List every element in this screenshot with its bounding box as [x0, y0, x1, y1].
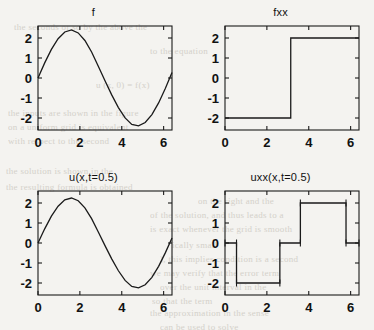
figure-grid: f 0246210-1-2 fxx 0246210-1-2 u(x,t=0.5)…	[0, 0, 374, 330]
x-tick-label: 6	[347, 135, 354, 150]
data-curve	[225, 38, 359, 118]
x-tick-label: 2	[76, 300, 83, 315]
x-tick-label: 0	[221, 300, 228, 315]
y-tick-label: 0	[212, 71, 219, 86]
y-tick-label: -1	[20, 91, 32, 106]
panel-u: u(x,t=0.5) 0246210-1-2	[0, 165, 187, 330]
y-tick-label: -1	[20, 256, 32, 271]
plot-fxx: 0246210-1-2	[187, 0, 374, 165]
data-curve	[38, 198, 172, 288]
y-tick-label: -1	[207, 256, 219, 271]
y-tick-label: 2	[25, 196, 32, 211]
y-tick-label: 0	[212, 236, 219, 251]
x-tick-label: 4	[118, 300, 126, 315]
y-tick-label: 2	[212, 196, 219, 211]
x-tick-label: 0	[34, 300, 41, 315]
panel-uxx: uxx(x,t=0.5) 0246210-1-2	[187, 165, 374, 330]
data-curve	[38, 30, 172, 126]
x-tick-label: 2	[263, 300, 270, 315]
y-tick-label: -2	[207, 111, 219, 126]
panel-f: f 0246210-1-2	[0, 0, 187, 165]
y-tick-label: 1	[212, 51, 219, 66]
x-tick-label: 0	[221, 135, 228, 150]
x-tick-label: 6	[347, 300, 354, 315]
x-tick-label: 6	[160, 135, 167, 150]
y-tick-label: 0	[25, 236, 32, 251]
x-tick-label: 4	[305, 135, 313, 150]
x-tick-label: 4	[118, 135, 126, 150]
panel-fxx: fxx 0246210-1-2	[187, 0, 374, 165]
y-tick-label: 1	[25, 216, 32, 231]
x-tick-label: 2	[76, 135, 83, 150]
x-tick-label: 2	[263, 135, 270, 150]
x-tick-label: 4	[305, 300, 313, 315]
y-tick-label: 0	[25, 71, 32, 86]
y-tick-label: -1	[207, 91, 219, 106]
axes-box	[225, 26, 359, 130]
x-tick-label: 0	[34, 135, 41, 150]
y-tick-label: 2	[212, 31, 219, 46]
plot-u: 0246210-1-2	[0, 165, 187, 330]
y-tick-label: 1	[212, 216, 219, 231]
data-curve	[225, 203, 359, 283]
y-tick-label: -2	[20, 276, 32, 291]
y-tick-label: -2	[20, 111, 32, 126]
plot-uxx: 0246210-1-2	[187, 165, 374, 330]
x-tick-label: 6	[160, 300, 167, 315]
plot-f: 0246210-1-2	[0, 0, 187, 165]
y-tick-label: 2	[25, 31, 32, 46]
y-tick-label: 1	[25, 51, 32, 66]
y-tick-label: -2	[207, 276, 219, 291]
